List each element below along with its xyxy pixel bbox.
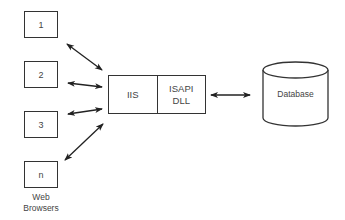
client-label-1: 1 bbox=[38, 20, 43, 30]
arrow-client-n-server bbox=[65, 124, 103, 160]
arrow-client-2-server bbox=[68, 83, 102, 87]
database-label: Database bbox=[263, 89, 328, 99]
client-label-2: 2 bbox=[38, 70, 43, 80]
arrow-client-3-server bbox=[68, 109, 102, 114]
iis-cell: IIS bbox=[109, 76, 157, 113]
client-box-2: 2 bbox=[24, 61, 58, 88]
client-box-3: 3 bbox=[24, 111, 58, 138]
client-box-1: 1 bbox=[24, 11, 58, 38]
arrow-client-1-server bbox=[67, 44, 102, 70]
client-label-n: n bbox=[38, 170, 43, 180]
isapi-dll-cell: ISAPI DLL bbox=[157, 76, 206, 113]
server-box: IIS ISAPI DLL bbox=[108, 75, 206, 114]
client-label-3: 3 bbox=[38, 120, 43, 130]
web-browsers-caption: Web Browsers bbox=[16, 192, 66, 214]
client-box-n: n bbox=[24, 161, 58, 188]
